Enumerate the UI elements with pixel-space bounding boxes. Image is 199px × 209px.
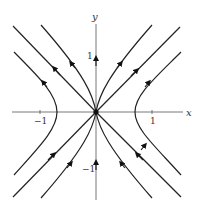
y-tick-1: 1: [87, 51, 93, 61]
equilibrium-point: [93, 109, 98, 114]
y-tick-neg1: −1: [82, 164, 95, 174]
curve-origin-lower-left: [41, 112, 96, 198]
arrow-curve-ur: [117, 63, 121, 68]
arrow-hyp-right: [141, 145, 145, 150]
arrow-diag-ul: [54, 68, 60, 75]
curve-origin-upper-right: [96, 25, 152, 112]
hyperbola-right: [135, 52, 181, 175]
arrow-hyp-left: [43, 82, 47, 87]
x-tick-neg1: −1: [34, 116, 47, 126]
curve-origin-lower-right: [96, 112, 152, 198]
curve-origin-upper-left: [41, 25, 96, 112]
x-tick-1: 1: [150, 116, 156, 126]
phase-portrait: x y −1 1 1 −1: [0, 0, 199, 209]
arrow-diag-ur: [131, 70, 137, 76]
hyperbola-left: [14, 52, 57, 175]
x-axis-label: x: [186, 107, 192, 118]
arrow-diag-dr: [137, 154, 143, 160]
y-axis-label: y: [91, 11, 98, 22]
arrow-diag-dl: [48, 154, 54, 160]
